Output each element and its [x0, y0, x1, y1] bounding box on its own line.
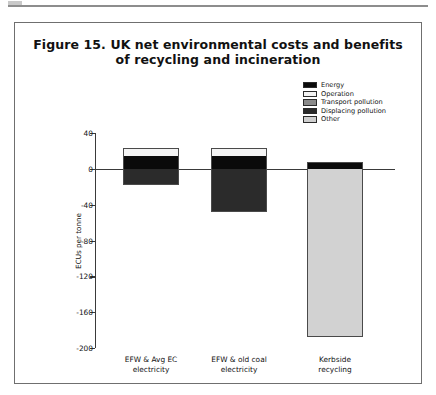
- y-axis-tick-label: -120: [53, 272, 93, 281]
- y-axis-line: [95, 133, 96, 348]
- bar-outline: [307, 162, 363, 338]
- legend-item: Energy: [303, 81, 386, 90]
- y-axis-tick-label: -160: [53, 308, 93, 317]
- x-axis-category-line: recycling: [280, 365, 390, 375]
- bar-1: [123, 148, 179, 185]
- x-axis-category-label: EFW & old coalelectricity: [184, 355, 294, 375]
- bar-outline: [123, 148, 179, 185]
- x-axis-category-line: Kerbside: [280, 355, 390, 365]
- legend-item-label: Operation: [321, 90, 354, 99]
- legend-item: Transport pollution: [303, 98, 386, 107]
- page-top-rule: [8, 5, 428, 7]
- plot-area: ECUs per tonne 400-40-80-120-160-200EFW …: [95, 133, 395, 348]
- bar-3: [307, 162, 363, 338]
- legend-swatch-icon: [303, 99, 317, 105]
- legend-swatch-icon: [303, 108, 317, 114]
- y-axis-tick-label: -40: [53, 200, 93, 209]
- legend-item: Displacing pollution: [303, 107, 386, 116]
- bar-2: [211, 148, 267, 212]
- figure-title-line1: Figure 15. UK net environmental costs an…: [15, 37, 421, 52]
- bar-outline: [211, 148, 267, 212]
- y-axis-tick-label: -80: [53, 236, 93, 245]
- y-axis-tick-label: 40: [53, 129, 93, 138]
- x-axis-category-line: electricity: [184, 365, 294, 375]
- x-axis-category-line: EFW & old coal: [184, 355, 294, 365]
- x-axis-category-label: Kerbsiderecycling: [280, 355, 390, 375]
- chart-legend: EnergyOperationTransport pollutionDispla…: [303, 81, 386, 124]
- legend-item-label: Transport pollution: [321, 98, 383, 107]
- legend-item-label: Displacing pollution: [321, 107, 386, 116]
- legend-item-label: Energy: [321, 81, 344, 90]
- page-top-rule-cap: [8, 1, 22, 5]
- y-axis-tick-label: -200: [53, 344, 93, 353]
- legend-swatch-icon: [303, 91, 317, 97]
- y-axis-tick-label: 0: [53, 164, 93, 173]
- legend-item-label: Other: [321, 115, 340, 124]
- figure-page: Figure 15. UK net environmental costs an…: [0, 0, 436, 395]
- figure-title-line2: of recycling and incineration: [15, 52, 421, 67]
- legend-swatch-icon: [303, 116, 317, 122]
- legend-item: Other: [303, 115, 386, 124]
- legend-swatch-icon: [303, 82, 317, 88]
- figure-frame: Figure 15. UK net environmental costs an…: [14, 22, 422, 384]
- legend-item: Operation: [303, 90, 386, 99]
- figure-title: Figure 15. UK net environmental costs an…: [15, 37, 421, 67]
